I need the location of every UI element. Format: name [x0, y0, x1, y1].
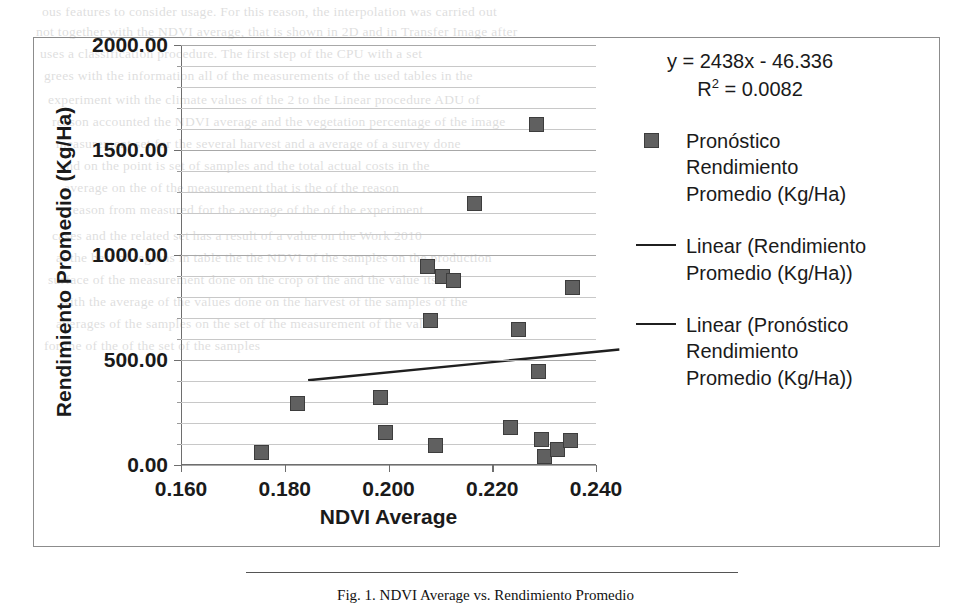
y-axis-tick — [174, 255, 181, 256]
gridline-major — [181, 360, 596, 361]
scatter-point — [531, 364, 546, 379]
y-axis-tick — [177, 171, 181, 172]
scatter-point — [254, 445, 269, 460]
legend-label-line: Rendimiento — [686, 154, 846, 180]
gridline-major — [181, 255, 596, 256]
scatter-point — [503, 420, 518, 435]
x-axis-tick-label: 0.180 — [258, 477, 311, 501]
x-axis-title: NDVI Average — [181, 505, 596, 529]
legend-label-line: Promedio (Kg/Ha) — [686, 181, 846, 207]
r-squared-value: R2 = 0.0082 — [640, 75, 860, 103]
scatter-point — [428, 438, 443, 453]
r-squared-exponent: 2 — [712, 76, 719, 91]
legend-line-marker-icon — [636, 312, 678, 336]
legend-label-line: Linear (Pronóstico — [686, 312, 853, 338]
scatter-point — [467, 196, 482, 211]
gridline-minor — [181, 87, 596, 88]
bleed-through-text: ous features to consider usage. For this… — [42, 4, 497, 20]
legend-square-marker-icon — [636, 128, 678, 152]
gridline-minor — [181, 318, 596, 319]
legend-label-line: Promedio (Kg/Ha)) — [686, 365, 853, 391]
gridline-minor — [181, 297, 596, 298]
y-axis-tick — [177, 444, 181, 445]
y-axis-tick — [177, 276, 181, 277]
y-axis-tick — [174, 150, 181, 151]
scatter-point — [534, 432, 549, 447]
gridline-minor — [181, 402, 596, 403]
y-axis-tick — [174, 45, 181, 46]
regression-annotation: y = 2438x - 46.336 R2 = 0.0082 — [640, 48, 860, 103]
gridline-minor — [181, 339, 596, 340]
gridline-minor — [181, 423, 596, 424]
y-axis-tick-label: 500.00 — [104, 348, 168, 372]
scatter-point — [423, 313, 438, 328]
y-axis-tick — [177, 381, 181, 382]
y-axis-tick — [177, 213, 181, 214]
x-axis-tick-label: 0.220 — [466, 477, 519, 501]
regression-trendline — [308, 350, 619, 381]
plot-area: 0.00500.001000.001500.002000.000.1600.18… — [181, 45, 596, 465]
gridline-minor — [181, 192, 596, 193]
y-axis-tick-label: 0.00 — [127, 453, 168, 477]
caption-rule — [246, 572, 738, 573]
scatter-point — [378, 425, 393, 440]
y-axis-tick — [177, 129, 181, 130]
y-axis-tick — [177, 66, 181, 67]
y-axis-tick — [177, 108, 181, 109]
gridline-minor — [181, 213, 596, 214]
y-axis-tick — [177, 402, 181, 403]
gridline-minor — [181, 108, 596, 109]
y-axis-tick — [174, 465, 181, 466]
gridline-minor — [181, 276, 596, 277]
scatter-point — [446, 273, 461, 288]
x-axis-tick-label: 0.240 — [570, 477, 623, 501]
legend-label-line: Pronóstico — [686, 128, 846, 154]
y-axis-tick — [177, 297, 181, 298]
scatter-point — [290, 396, 305, 411]
legend-item-label: PronósticoRendimientoPromedio (Kg/Ha) — [686, 128, 846, 207]
gridline-minor — [181, 171, 596, 172]
legend-line-marker-icon — [636, 233, 678, 257]
scatter-point — [511, 322, 526, 337]
legend-label-line: Linear (Rendimiento — [686, 233, 866, 259]
legend-item[interactable]: Linear (PronósticoRendimientoPromedio (K… — [636, 312, 931, 391]
legend-label-line: Rendimiento — [686, 338, 853, 364]
gridline-minor — [181, 66, 596, 67]
y-axis-tick — [177, 87, 181, 88]
y-axis-tick — [177, 339, 181, 340]
y-axis-tick — [177, 234, 181, 235]
x-axis-tick — [596, 465, 597, 472]
gridline-minor — [181, 381, 596, 382]
y-axis-tick — [177, 318, 181, 319]
chart-legend: PronósticoRendimientoPromedio (Kg/Ha)Lin… — [636, 128, 931, 417]
y-axis-tick-label: 1500.00 — [92, 138, 168, 162]
y-axis-tick — [177, 423, 181, 424]
y-axis-tick — [174, 360, 181, 361]
figure-caption: Fig. 1. NDVI Average vs. Rendimiento Pro… — [0, 587, 971, 604]
legend-item[interactable]: PronósticoRendimientoPromedio (Kg/Ha) — [636, 128, 931, 207]
legend-label-line: Promedio (Kg/Ha)) — [686, 260, 866, 286]
y-axis-title: Rendimiento Promedio (Kg/Ha) — [52, 52, 76, 472]
y-axis-tick-label: 2000.00 — [92, 33, 168, 57]
regression-equation: y = 2438x - 46.336 — [640, 48, 860, 75]
legend-item-label: Linear (PronósticoRendimientoPromedio (K… — [686, 312, 853, 391]
gridline-major — [181, 45, 596, 46]
gridline-minor — [181, 234, 596, 235]
x-axis-tick — [389, 465, 390, 472]
x-axis-tick — [285, 465, 286, 472]
r-squared-number: = 0.0082 — [719, 78, 803, 100]
x-axis-tick — [181, 465, 182, 472]
legend-item[interactable]: Linear (RendimientoPromedio (Kg/Ha)) — [636, 233, 931, 286]
y-axis-tick — [177, 192, 181, 193]
scatter-point — [565, 280, 580, 295]
scatter-point — [563, 433, 578, 448]
legend-item-label: Linear (RendimientoPromedio (Kg/Ha)) — [686, 233, 866, 286]
scatter-point — [373, 390, 388, 405]
gridline-major — [181, 150, 596, 151]
r-squared-prefix: R — [697, 78, 711, 100]
x-axis-tick-label: 0.160 — [155, 477, 208, 501]
scatter-point — [529, 117, 544, 132]
x-axis-tick — [492, 465, 493, 472]
y-axis-tick-label: 1000.00 — [92, 243, 168, 267]
scatter-point — [420, 259, 435, 274]
